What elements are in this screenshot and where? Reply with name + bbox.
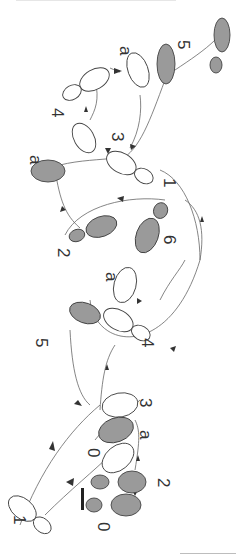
count-label: 2 [54,248,73,257]
shoe-shaded [131,198,170,256]
dance-step-diagram: 5 a 4 3 a 1 2 6 a 4 5 3 a 0 2 0 1 [0,0,236,557]
count-label: 4 [48,108,67,117]
foot-ball-shaded [157,44,175,84]
count-label: 0 [94,522,113,531]
count-label: a [102,272,121,282]
shoe-shaded [86,494,141,516]
count-label: 3 [108,132,127,141]
shoe-shaded [210,18,230,73]
count-label: a [26,155,45,165]
foot-outline [100,390,140,420]
count-label: a [116,46,135,56]
foot-outline [67,119,100,157]
heel-bar-marker [81,488,84,510]
shoe-outline [58,63,113,106]
count-label: a [136,430,155,440]
count-label: 1 [160,178,179,187]
count-label: 0 [84,448,103,457]
arrow-icon [170,346,176,352]
arrow-icon [137,298,142,304]
foot-outline [110,265,141,305]
count-label: 3 [136,398,155,407]
arrow-icon [74,400,82,406]
foot-outline [122,50,153,91]
arrow-icon [66,478,74,486]
count-label: 5 [32,338,51,347]
count-label: 2 [154,478,173,487]
count-label: 5 [174,40,193,49]
shoe-shaded [91,471,146,493]
count-label: 1 [10,515,29,524]
foot-ball-shaded [95,413,137,448]
count-labels: 5 a 4 3 a 1 2 6 a 4 5 3 a 0 2 0 1 [10,40,193,531]
count-label: 4 [138,338,157,347]
arrow-icon [200,216,204,222]
arrow-icon [114,68,122,74]
foot-ball-shaded [67,298,104,328]
count-label: 6 [160,235,179,244]
shoe-shaded [66,212,120,248]
arrow-icon [49,441,55,451]
arrow-icon [84,106,88,112]
